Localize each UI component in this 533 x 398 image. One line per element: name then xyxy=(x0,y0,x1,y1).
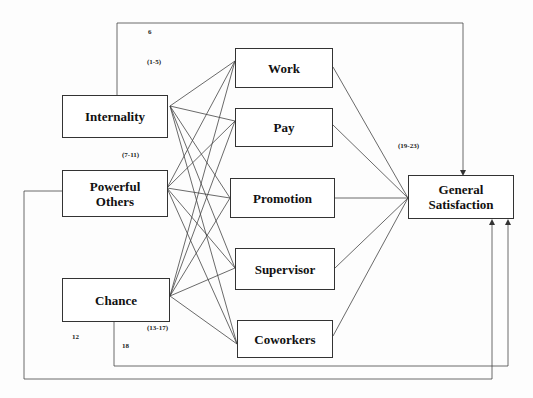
path-label-6: 6 xyxy=(148,28,152,36)
path-label-13-17: (13-17) xyxy=(147,324,168,332)
box-promotion: Promotion xyxy=(230,178,335,218)
path-label-19-23: (19-23) xyxy=(398,142,419,150)
path-label-1-5: (1-5) xyxy=(147,58,161,66)
box-internality: Internality xyxy=(62,95,168,138)
path-diagram: Internality Powerful Others Chance Work … xyxy=(0,0,533,398)
box-coworkers: Coworkers xyxy=(237,320,333,358)
box-powerful-others: Powerful Others xyxy=(62,170,168,217)
path-label-7-11: (7-11) xyxy=(122,151,139,159)
box-pay: Pay xyxy=(235,108,333,147)
box-general-satisfaction: General Satisfaction xyxy=(408,175,514,219)
box-chance: Chance xyxy=(62,278,170,322)
box-supervisor: Supervisor xyxy=(235,248,335,290)
path-label-12: 12 xyxy=(72,333,79,341)
path-label-18: 18 xyxy=(122,342,129,350)
box-work: Work xyxy=(235,48,333,88)
